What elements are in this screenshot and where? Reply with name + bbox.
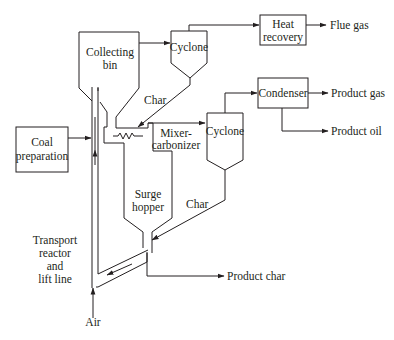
heat-recovery-label-2: recovery	[263, 31, 303, 44]
transport-label-1: Transport	[33, 234, 78, 247]
cyclone-top-label: Cyclone	[170, 41, 208, 54]
surge-hopper-label-2: hopper	[132, 201, 164, 214]
cyclone-top: Cyclone	[170, 31, 208, 85]
process-flow-diagram: Collecting bin Mixer- carbonizer Surge h…	[0, 0, 394, 340]
char-arrow-icon	[138, 85, 190, 127]
char-label-mid: Char	[186, 198, 209, 210]
cyclone-mid-label: Cyclone	[206, 125, 244, 138]
gas-to-condenser-arrow-icon	[225, 93, 257, 113]
transport-label-3: and	[47, 260, 64, 272]
mixer-carbonizer: Mixer- carbonizer	[104, 123, 200, 177]
collecting-bin: Collecting bin	[79, 32, 139, 143]
char-label-top: Char	[144, 94, 167, 106]
product-gas-label: Product gas	[331, 87, 386, 100]
coal-prep-label-1: Coal	[31, 136, 53, 148]
gas-to-heat-recovery-arrow-icon	[189, 25, 259, 31]
mixer-label-1: Mixer-	[160, 127, 192, 139]
collecting-bin-label-1: Collecting	[86, 46, 134, 59]
surge-hopper-label-1: Surge	[135, 188, 162, 201]
condenser: Condenser	[258, 78, 308, 108]
transport-label-4: lift line	[38, 273, 72, 285]
transport-label-2: reactor	[39, 247, 71, 259]
product-oil-arrow-icon	[282, 108, 328, 131]
surge-hopper: Surge hopper	[124, 177, 172, 253]
product-oil-label: Product oil	[331, 125, 382, 137]
heat-recovery-label-1: Heat	[272, 18, 295, 30]
recycle-arrow-icon	[107, 264, 132, 275]
coal-preparation: Coal preparation	[16, 127, 69, 172]
mixer-label-2: carbonizer	[152, 139, 201, 151]
product-char-label: Product char	[227, 270, 286, 282]
condenser-label: Condenser	[258, 87, 307, 99]
flue-gas-label: Flue gas	[330, 19, 369, 32]
cyclone-mid: Cyclone	[206, 113, 244, 200]
transport-reactor-label: Transport reactor and lift line	[33, 234, 78, 285]
collecting-bin-label-2: bin	[103, 59, 118, 71]
product-char-arrow-icon	[147, 253, 224, 276]
heater-coil-icon	[113, 133, 143, 139]
air-label: Air	[85, 316, 101, 328]
heat-recovery: Heat recovery	[260, 15, 306, 45]
coal-prep-label-2: preparation	[16, 150, 69, 163]
